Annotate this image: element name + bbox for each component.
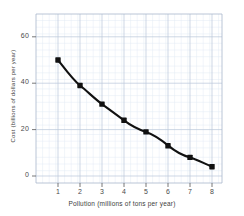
data-point [165,143,170,148]
x-tick-label: 1 [51,188,65,195]
data-point [99,101,104,106]
data-point [55,57,60,62]
y-axis-title: Cost (billions of dollars per year) [10,31,16,161]
data-point [77,83,82,88]
x-tick-label: 2 [73,188,87,195]
x-tick-label: 6 [161,188,175,195]
x-axis-title: Pollution (millions of tons per year) [0,200,244,207]
x-tick-label: 5 [139,188,153,195]
data-point [209,164,214,169]
y-tick-label: 0 [13,171,29,178]
line-chart [0,0,244,216]
data-point [187,155,192,160]
x-tick-label: 4 [117,188,131,195]
x-tick-label: 7 [183,188,197,195]
x-tick-label: 8 [205,188,219,195]
data-point [143,129,148,134]
x-tick-label: 3 [95,188,109,195]
data-point [121,118,126,123]
